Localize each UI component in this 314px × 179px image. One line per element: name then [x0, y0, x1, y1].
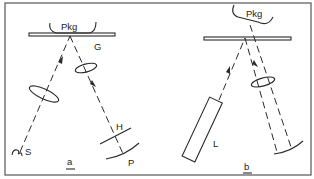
- glass-label: G: [94, 41, 101, 52]
- panel-b: Pkg L b: [182, 5, 303, 173]
- beam-arrow-up-icon-b: [226, 66, 230, 74]
- panel-b-caption: b: [244, 161, 249, 172]
- panel-a: Pkg G H P S a: [12, 21, 139, 169]
- glass-plate-b: [204, 37, 291, 40]
- outgoing-beam-a: [70, 36, 124, 156]
- package-label-b: Pkg: [246, 8, 262, 19]
- optical-setup-figure: Pkg G H P S a Pkg: [0, 0, 314, 179]
- beam-arrow-down-icon-b: [252, 60, 258, 67]
- package-label-a: Pkg: [61, 21, 77, 32]
- lens-incoming-a: [27, 83, 60, 106]
- outgoing-beam-b-left: [245, 38, 277, 152]
- screen-arc-b: [274, 141, 303, 154]
- glass-plate-a: [29, 33, 115, 36]
- laser-label: L: [213, 138, 218, 149]
- lens-outgoing-a: [74, 61, 97, 74]
- plate-label: P: [128, 157, 134, 168]
- laser-body: [182, 97, 222, 162]
- panel-a-caption: a: [67, 156, 73, 167]
- incoming-beam-a: [20, 36, 70, 152]
- lens-b: [250, 75, 275, 89]
- beam-arrow-down-icon: [90, 80, 96, 87]
- hologram-label: H: [116, 121, 123, 132]
- incoming-beam-b: [219, 38, 245, 100]
- source-label: S: [25, 146, 31, 157]
